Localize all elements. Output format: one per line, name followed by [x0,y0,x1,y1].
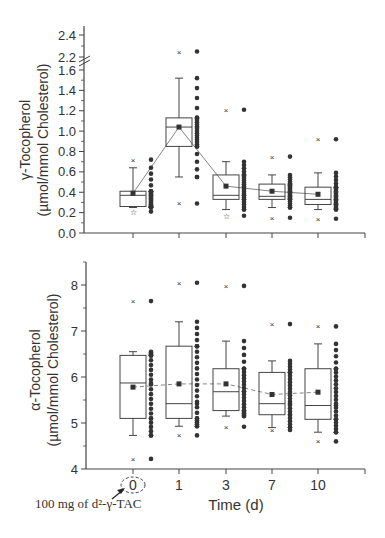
data-point [195,332,200,337]
data-point [149,392,154,397]
y-tick-label: 0.6 [58,164,76,179]
data-point [195,394,200,399]
data-point [334,348,339,353]
data-point [149,189,154,194]
data-point [195,405,200,410]
data-point [149,177,154,182]
max-outlier-x-icon: × [316,322,321,331]
y-tick-label: 0.8 [58,144,76,159]
data-point [149,299,154,304]
data-point [195,116,200,121]
data-point [149,350,154,355]
x-tick-label-7: 7 [268,477,276,493]
data-point [195,399,200,404]
min-outlier-x-icon: ☆ [130,208,137,217]
data-point [288,215,293,220]
mean-marker-icon [270,189,275,194]
data-point [288,416,293,421]
data-point [242,163,247,168]
data-point [149,204,154,209]
box-iqr [166,118,192,147]
data-point [242,360,247,365]
dose-label: 100 mg of d²-γ-TAC [35,496,141,511]
x-tick-label-1: 1 [175,477,183,493]
data-point [149,209,154,214]
data-point [195,388,200,393]
data-point [195,344,200,349]
data-point [195,366,200,371]
data-point [334,439,339,444]
x-axis-title: Time (d) [208,496,263,513]
data-point [288,175,293,180]
data-point [288,361,293,366]
data-point [195,361,200,366]
data-point [195,418,200,423]
box-iqr [213,369,239,411]
data-point [334,137,339,142]
x-tick-label-10: 10 [310,477,326,493]
data-point [195,49,200,54]
data-point [149,382,154,387]
data-point [334,420,339,425]
data-point [195,159,200,164]
mean-marker-icon [270,392,275,397]
data-point [242,353,247,358]
max-outlier-x-icon: × [131,156,136,165]
y-tick-label: 0.4 [58,185,76,200]
gamma-tocopherol-plot: 0.00.20.40.60.81.01.21.41.62.22.4×☆×××☆×… [58,26,365,241]
data-point [334,216,339,221]
data-point [242,339,247,344]
data-point [149,433,154,438]
data-point [334,174,339,179]
data-point [334,354,339,359]
top-y-axis-subtitle: (µmol/mmol Cholesterol) [35,64,51,217]
data-point [149,387,154,392]
min-outlier-x-icon: × [224,423,229,432]
min-outlier-x-icon: × [177,199,182,208]
min-outlier-x-icon: × [316,437,321,446]
y-tick-label: 0.2 [58,205,76,220]
data-point [195,433,200,438]
y-tick-label: 7 [71,324,78,339]
max-outlier-x-icon: × [224,106,229,115]
data-point [334,366,339,371]
data-point [288,322,293,327]
data-point [195,355,200,360]
min-outlier-x-icon: × [316,215,321,224]
alpha-tocopherol-plot: 45678013710×××××××××× [71,262,365,493]
y-tick-label: 4 [71,462,78,477]
max-outlier-x-icon: × [177,279,182,288]
mean-marker-icon [177,125,182,130]
bottom-y-axis-title: α-Tocopherol [27,329,43,410]
arrow-head-icon [117,488,125,494]
data-point [242,410,247,415]
data-point [149,363,154,368]
mean-marker-icon [224,381,229,386]
data-point [149,171,154,176]
data-point [195,320,200,325]
data-point [195,326,200,331]
data-point [334,203,339,208]
data-point [334,360,339,365]
data-point [149,429,154,434]
data-point [334,324,339,329]
y-tick-label: 5 [71,416,78,431]
data-point [195,201,200,206]
data-point [195,96,200,101]
data-point [242,107,247,112]
mean-marker-icon [224,184,229,189]
data-point [288,199,293,204]
data-point [242,424,247,429]
data-point [149,166,154,171]
data-point [195,383,200,388]
y-tick-label: 1.4 [58,83,76,98]
data-point [149,411,154,416]
max-outlier-x-icon: × [270,153,275,162]
data-point [149,420,154,425]
max-outlier-x-icon: × [177,48,182,57]
x-tick-label-0: 0 [129,477,137,493]
data-point [149,358,154,363]
mean-marker-icon [131,385,136,390]
data-point [195,167,200,172]
data-point [149,377,154,382]
